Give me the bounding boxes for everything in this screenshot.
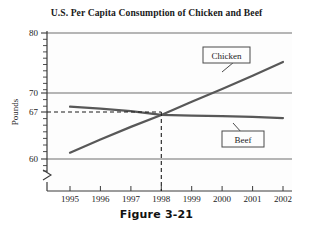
x-tick-label-1997: 1997 xyxy=(122,194,141,204)
figure-caption: Figure 3-21 xyxy=(0,208,313,221)
chicken-callout-label: Chicken xyxy=(212,51,242,61)
y-axis-label: Pounds xyxy=(10,98,20,125)
x-tick-label-1996: 1996 xyxy=(91,194,110,204)
x-tick-label-1999: 1999 xyxy=(183,194,202,204)
x-tick-label-2000: 2000 xyxy=(213,194,232,204)
chart-figure: U.S. Per Capita Consumption of Chicken a… xyxy=(0,0,313,234)
y-tick-label-70: 70 xyxy=(29,88,39,98)
x-tick-label-1995: 1995 xyxy=(61,194,80,204)
beef-callout-label: Beef xyxy=(235,135,252,145)
y-tick-label-60: 60 xyxy=(29,154,39,164)
x-tick-label-1998: 1998 xyxy=(152,194,171,204)
y-tick-label-80: 80 xyxy=(29,28,39,38)
x-tick-label-2002: 2002 xyxy=(274,194,292,204)
chart-plot-area: 80 70 67 60 Pounds 1995 1996 1997 1998 1… xyxy=(0,0,313,234)
y-tick-label-67: 67 xyxy=(29,107,39,117)
x-tick-label-2001: 2001 xyxy=(244,194,262,204)
plot-background xyxy=(47,30,292,190)
